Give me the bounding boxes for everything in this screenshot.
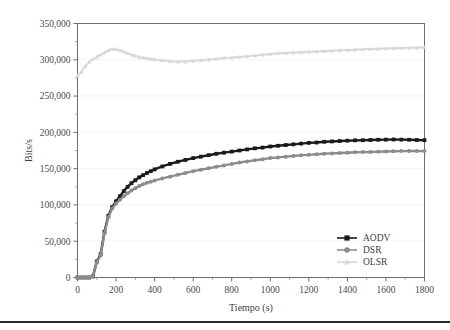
data-point-marker (307, 141, 311, 145)
data-point-marker (191, 169, 195, 173)
data-point-marker (284, 155, 288, 159)
x-tick-label: 1200 (299, 285, 318, 295)
data-point-marker (245, 148, 249, 152)
data-point-marker (122, 189, 126, 193)
data-point-marker (369, 138, 373, 142)
data-point-marker (361, 150, 365, 154)
figure-container: 050,000100,000150,000200,000250,000300,0… (0, 0, 450, 330)
x-tick-label: 400 (147, 285, 162, 295)
data-point-marker (237, 160, 241, 164)
data-point-marker (145, 171, 149, 175)
data-point-marker (353, 150, 357, 154)
data-point-marker (114, 201, 118, 205)
data-point-marker (292, 142, 296, 146)
data-point-marker (315, 152, 319, 156)
data-point-marker (415, 138, 419, 142)
data-point-marker (345, 151, 349, 155)
data-point-marker (238, 149, 242, 153)
data-point-marker (284, 143, 288, 147)
data-point-marker (176, 173, 180, 177)
legend-label: AODV (363, 233, 391, 243)
data-point-marker (130, 181, 134, 185)
data-point-marker (83, 276, 87, 280)
data-point-marker (384, 138, 388, 142)
data-point-marker (338, 139, 342, 143)
data-point-marker (345, 139, 349, 143)
data-point-marker (407, 149, 411, 153)
data-point-marker (149, 180, 153, 184)
data-point-marker (376, 138, 380, 142)
data-point-marker (79, 276, 83, 280)
data-point-marker (384, 150, 388, 154)
data-point-marker (102, 231, 106, 235)
data-point-marker (268, 145, 272, 149)
x-axis-title: Tiempo (s) (229, 302, 273, 314)
data-point-marker (361, 138, 365, 142)
data-point-marker (423, 138, 427, 142)
data-point-marker (407, 138, 411, 142)
data-point-marker (153, 167, 157, 171)
x-tick-label: 200 (109, 285, 124, 295)
data-point-marker (168, 175, 172, 179)
data-point-marker (160, 165, 164, 169)
data-point-marker (99, 253, 103, 257)
data-point-marker (160, 176, 164, 180)
x-tick-label: 1400 (338, 285, 357, 295)
data-point-marker (149, 169, 153, 173)
data-point-marker (392, 149, 396, 153)
data-point-marker (330, 151, 334, 155)
data-point-marker (110, 207, 114, 211)
data-point-marker (307, 153, 311, 157)
data-point-marker (145, 181, 149, 185)
data-point-marker (126, 191, 130, 195)
x-tick-label: 1800 (415, 285, 434, 295)
y-tick-label: 150,000 (40, 164, 71, 174)
footer-divider (0, 321, 450, 323)
legend-entry-dsr[interactable]: DSR (337, 245, 382, 255)
data-point-marker (392, 138, 396, 142)
data-point-marker (222, 163, 226, 167)
data-point-marker (141, 182, 145, 186)
data-point-marker (95, 260, 99, 264)
data-point-marker (338, 151, 342, 155)
data-point-marker (268, 156, 272, 160)
data-point-marker (122, 194, 126, 198)
data-point-marker (415, 149, 419, 153)
data-point-marker (322, 140, 326, 144)
data-point-marker (184, 158, 188, 162)
data-point-marker (137, 175, 141, 179)
data-point-marker (214, 165, 218, 169)
y-tick-label: 100,000 (40, 200, 71, 210)
data-point-marker (222, 151, 226, 155)
data-point-marker (299, 153, 303, 157)
data-point-marker (76, 276, 80, 280)
data-point-marker (207, 166, 211, 170)
y-tick-label: 350,000 (40, 19, 71, 29)
data-point-marker (168, 162, 172, 166)
data-point-marker (118, 198, 122, 202)
square-marker-icon (344, 235, 349, 240)
data-point-marker (87, 276, 91, 280)
data-point-marker (315, 141, 319, 145)
data-point-marker (207, 153, 211, 157)
data-point-marker (176, 160, 180, 164)
series-olsr (75, 45, 426, 77)
series-line-olsr (78, 47, 425, 75)
data-point-marker (126, 185, 130, 189)
data-point-marker (330, 140, 334, 144)
x-tick-label: 800 (225, 285, 240, 295)
data-point-marker (191, 156, 195, 160)
data-point-marker (423, 149, 427, 153)
data-point-marker (322, 152, 326, 156)
data-point-marker (106, 215, 110, 219)
x-tick-label: 1000 (261, 285, 280, 295)
legend-label: OLSR (363, 257, 388, 267)
legend-entry-olsr[interactable]: OLSR (337, 257, 388, 267)
legend-entry-aodv[interactable]: AODV (337, 233, 391, 243)
data-point-marker (276, 144, 280, 148)
x-tick-label: 1600 (376, 285, 395, 295)
data-point-marker (261, 146, 265, 150)
data-point-marker (253, 146, 257, 150)
data-point-marker (276, 155, 280, 159)
data-point-marker (153, 179, 157, 183)
